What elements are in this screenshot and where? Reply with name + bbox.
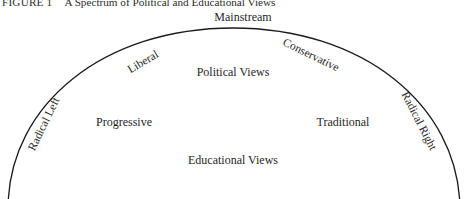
figure-container: FIGURE 1 A Spectrum of Political and Edu… bbox=[0, 0, 469, 199]
label-political-views: Political Views bbox=[197, 66, 270, 79]
spectrum-arc-path bbox=[8, 28, 460, 199]
spectrum-arc-graphic bbox=[0, 0, 469, 199]
label-mainstream: Mainstream bbox=[214, 11, 271, 24]
label-educational-views: Educational Views bbox=[188, 154, 278, 167]
label-traditional: Traditional bbox=[317, 116, 370, 129]
label-progressive: Progressive bbox=[96, 116, 152, 129]
